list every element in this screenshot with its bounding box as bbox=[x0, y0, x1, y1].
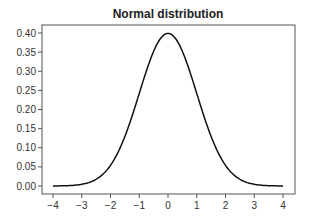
y-tick-label: 0.20 bbox=[17, 104, 37, 115]
y-axis: 0.000.050.100.150.200.250.300.350.40 bbox=[17, 28, 42, 192]
x-tick-label: 0 bbox=[165, 200, 171, 211]
y-tick-label: 0.15 bbox=[17, 123, 37, 134]
chart-canvas: Normal distribution 0.000.050.100.150.20… bbox=[0, 0, 310, 218]
axes-frame bbox=[42, 25, 295, 194]
x-tick-label: −4 bbox=[47, 200, 59, 211]
x-tick-label: 4 bbox=[280, 200, 286, 211]
x-axis: −4−3−2−101234 bbox=[47, 194, 286, 211]
x-tick-label: −2 bbox=[105, 200, 117, 211]
x-tick-label: −3 bbox=[76, 200, 88, 211]
x-tick-label: 1 bbox=[194, 200, 200, 211]
y-tick-label: 0.30 bbox=[17, 66, 37, 77]
y-tick-label: 0.25 bbox=[17, 85, 37, 96]
y-tick-label: 0.10 bbox=[17, 142, 37, 153]
x-tick-label: −1 bbox=[134, 200, 146, 211]
pdf-curve bbox=[53, 33, 283, 186]
y-tick-label: 0.40 bbox=[17, 28, 37, 39]
y-tick-label: 0.35 bbox=[17, 47, 37, 58]
x-tick-label: 3 bbox=[251, 200, 257, 211]
y-tick-label: 0.05 bbox=[17, 161, 37, 172]
y-tick-label: 0.00 bbox=[17, 181, 37, 192]
chart-title: Normal distribution bbox=[113, 7, 224, 21]
x-tick-label: 2 bbox=[223, 200, 229, 211]
